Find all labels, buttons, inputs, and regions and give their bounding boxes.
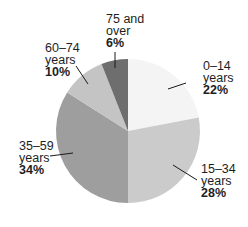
- label-percent: 22%: [203, 84, 234, 96]
- label-percent: 10%: [45, 66, 80, 78]
- pie-slice-15-34-years: [128, 118, 200, 203]
- pie-slices: [56, 59, 200, 203]
- label-75-and-over: 75 and over 6%: [106, 13, 144, 49]
- label-35-59-years: 35–59 years 34%: [19, 140, 54, 176]
- label-60-74-years: 60–74 years 10%: [45, 42, 80, 78]
- label-percent: 6%: [106, 37, 144, 49]
- label-percent: 34%: [19, 164, 54, 176]
- label-percent: 28%: [201, 187, 236, 199]
- label-15-34-years: 15–34 years 28%: [201, 163, 236, 199]
- label-0-14-years: 0–14 years 22%: [203, 60, 234, 96]
